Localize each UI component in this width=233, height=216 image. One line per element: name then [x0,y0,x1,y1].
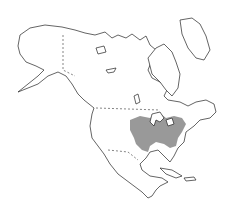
cuba [160,168,182,178]
range-map [0,0,233,216]
arctic-island [180,18,210,60]
hispaniola [184,177,196,181]
mainland-outline [18,25,216,198]
north-america-map [0,0,233,216]
